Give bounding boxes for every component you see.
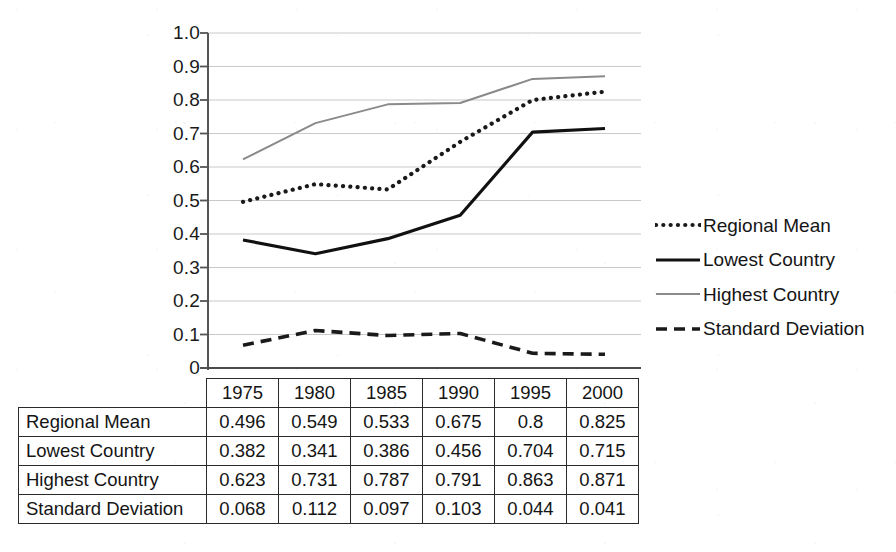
table-row: Regional Mean0.4960.5490.5330.6750.80.82… — [19, 408, 639, 437]
table-row-label: Highest Country — [19, 466, 207, 495]
table-column-header: 1990 — [423, 379, 495, 408]
table-cell: 0.382 — [207, 437, 279, 466]
table-cell: 0.097 — [351, 495, 423, 524]
legend-swatch-icon — [655, 253, 701, 267]
legend-item[interactable]: Lowest Country — [655, 243, 893, 278]
table-cell: 0.068 — [207, 495, 279, 524]
legend-item[interactable]: Regional Mean — [655, 208, 893, 243]
table-row-label: Standard Deviation — [19, 495, 207, 524]
table-cell: 0.825 — [567, 408, 639, 437]
series-line-regional-mean — [243, 92, 605, 202]
line-chart-with-data-table: 1.00.90.80.70.60.50.40.30.20.10 Regional… — [0, 0, 896, 552]
legend-swatch-icon — [655, 218, 701, 232]
table-cell: 0.456 — [423, 437, 495, 466]
table-cell: 0.341 — [279, 437, 351, 466]
table-cell: 0.8 — [495, 408, 567, 437]
table-column-header: 1980 — [279, 379, 351, 408]
chart-legend: Regional MeanLowest CountryHighest Count… — [655, 208, 893, 346]
table-cell: 0.044 — [495, 495, 567, 524]
legend-item[interactable]: Standard Deviation — [655, 312, 893, 347]
table-cell: 0.549 — [279, 408, 351, 437]
series-line-lowest-country — [243, 128, 605, 253]
legend-item-label: Lowest Country — [703, 250, 835, 269]
table-row-label: Regional Mean — [19, 408, 207, 437]
table-column-header: 1975 — [207, 379, 279, 408]
table-cell: 0.731 — [279, 466, 351, 495]
table-cell: 0.386 — [351, 437, 423, 466]
table-body: Regional Mean0.4960.5490.5330.6750.80.82… — [19, 408, 639, 524]
table-cell: 0.704 — [495, 437, 567, 466]
table-cell: 0.623 — [207, 466, 279, 495]
table-cell: 0.103 — [423, 495, 495, 524]
table-row: Standard Deviation0.0680.1120.0970.1030.… — [19, 495, 639, 524]
table-column-header: 1995 — [495, 379, 567, 408]
table-header-row: 197519801985199019952000 — [19, 379, 639, 408]
table-corner-cell — [19, 379, 207, 408]
legend-swatch-icon — [655, 287, 701, 301]
table-cell: 0.533 — [351, 408, 423, 437]
table-cell: 0.041 — [567, 495, 639, 524]
table-row: Lowest Country0.3820.3410.3860.4560.7040… — [19, 437, 639, 466]
table-cell: 0.791 — [423, 466, 495, 495]
legend-item-label: Highest Country — [703, 285, 839, 304]
table-column-header: 1985 — [351, 379, 423, 408]
table-cell: 0.787 — [351, 466, 423, 495]
series-line-highest-country — [243, 76, 605, 159]
table-cell: 0.871 — [567, 466, 639, 495]
legend-swatch-icon — [655, 322, 701, 336]
table-cell: 0.715 — [567, 437, 639, 466]
table-cell: 0.112 — [279, 495, 351, 524]
table-row-label: Lowest Country — [19, 437, 207, 466]
table-header: 197519801985199019952000 — [19, 379, 639, 408]
legend-item-label: Standard Deviation — [703, 319, 865, 338]
legend-item-label: Regional Mean — [703, 216, 831, 235]
table-cell: 0.675 — [423, 408, 495, 437]
chart-data-table: 197519801985199019952000 Regional Mean0.… — [18, 378, 639, 524]
legend-item[interactable]: Highest Country — [655, 277, 893, 312]
table-cell: 0.863 — [495, 466, 567, 495]
table-row: Highest Country0.6230.7310.7870.7910.863… — [19, 466, 639, 495]
table-column-header: 2000 — [567, 379, 639, 408]
table-cell: 0.496 — [207, 408, 279, 437]
